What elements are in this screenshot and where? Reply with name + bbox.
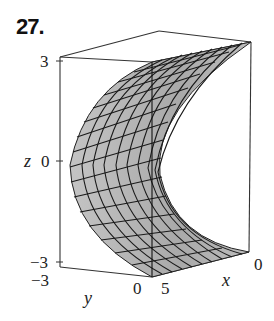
- x-axis-label: x: [221, 270, 230, 290]
- z-tick-3: 3: [40, 52, 49, 71]
- z-tick-0: 0: [41, 152, 50, 171]
- y-tick-neg3: −3: [31, 271, 49, 290]
- z-tick-neg3: −3: [30, 253, 48, 272]
- x-tick-0: 0: [254, 255, 263, 274]
- surface-plot: 3 0 −3 −3 0 5 0 z y x: [0, 0, 274, 321]
- y-axis-label: y: [82, 288, 92, 308]
- z-axis-label: z: [23, 151, 31, 171]
- cylindrical-surface: [70, 42, 251, 277]
- x-tick-5: 5: [161, 279, 170, 298]
- y-tick-0: 0: [133, 279, 142, 298]
